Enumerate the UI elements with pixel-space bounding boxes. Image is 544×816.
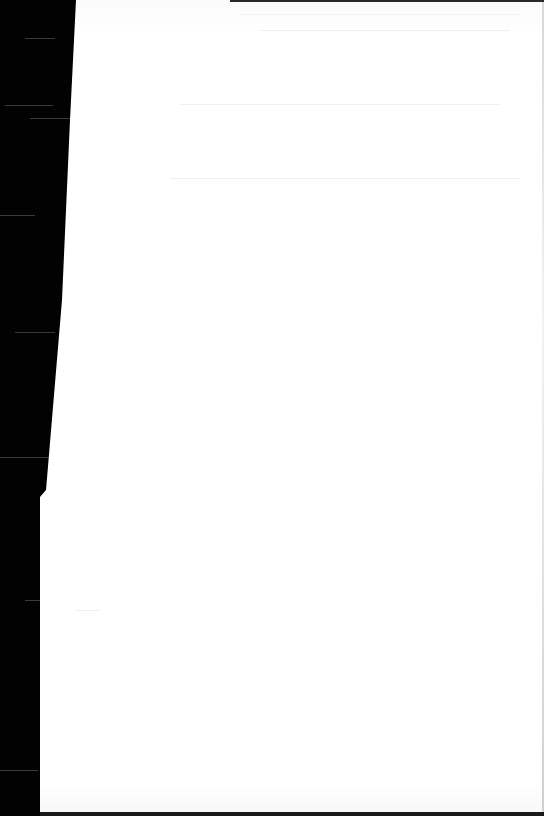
document-page — [0, 0, 544, 816]
background-streak — [0, 215, 35, 216]
background-streak — [0, 457, 50, 458]
background-streak — [15, 332, 55, 333]
faint-text-line — [260, 30, 510, 31]
faint-text-line — [180, 104, 500, 105]
faint-text-line — [240, 14, 520, 15]
background-streak — [5, 105, 53, 106]
page-bottom-edge — [40, 812, 544, 816]
background-streak — [25, 38, 55, 39]
background-streak — [0, 770, 38, 771]
background-streak — [30, 118, 70, 119]
faint-text-line — [75, 610, 100, 611]
faint-text-line — [170, 178, 520, 179]
page-top-edge — [230, 0, 544, 2]
page-content — [80, 10, 524, 806]
